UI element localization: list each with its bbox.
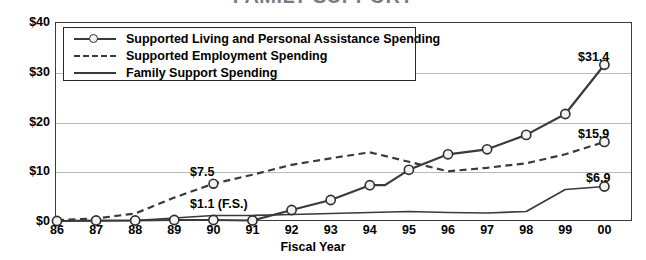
x-tick-90: 90 bbox=[206, 223, 220, 237]
y-tick-20: $20 bbox=[29, 115, 50, 129]
x-axis-title-wrap: Fiscal Year bbox=[0, 240, 646, 254]
x-tick-95: 95 bbox=[402, 223, 416, 237]
x-tick-96: 96 bbox=[441, 223, 455, 237]
legend-label-supported-living: Supported Living and Personal Assistance… bbox=[126, 32, 440, 46]
legend-item-supported-employment: Supported Employment Spending bbox=[72, 48, 409, 64]
x-tick-98: 98 bbox=[519, 223, 533, 237]
x-tick-86: 86 bbox=[50, 223, 64, 237]
legend-label-supported-employment: Supported Employment Spending bbox=[126, 49, 327, 63]
x-tick-99: 99 bbox=[558, 223, 572, 237]
x-tick-93: 93 bbox=[324, 223, 338, 237]
y-tick-30: $30 bbox=[29, 65, 50, 79]
annotation-31-4: $31.4 bbox=[578, 50, 609, 64]
y-tick-10: $10 bbox=[29, 164, 50, 178]
gridline-10 bbox=[56, 172, 631, 173]
annotation-1-1: $1.1 (F.S.) bbox=[190, 197, 248, 211]
legend-item-supported-living: Supported Living and Personal Assistance… bbox=[72, 31, 409, 47]
chart-title-cropped: FAMILY SUPPORT bbox=[0, 0, 646, 7]
x-tick-89: 89 bbox=[167, 223, 181, 237]
x-tick-97: 97 bbox=[480, 223, 494, 237]
legend-key-line-marker-icon bbox=[72, 32, 118, 46]
x-tick-92: 92 bbox=[285, 223, 299, 237]
y-axis: $40 $30 $20 $10 $0 bbox=[0, 0, 55, 260]
annotation-15-9: $15.9 bbox=[578, 127, 609, 141]
y-tick-40: $40 bbox=[29, 15, 50, 29]
x-tick-00: 00 bbox=[597, 223, 611, 237]
annotation-6-9: $6.9 bbox=[586, 171, 610, 185]
gridline-20 bbox=[56, 123, 631, 124]
legend-label-family-support: Family Support Spending bbox=[126, 66, 277, 80]
legend: Supported Living and Personal Assistance… bbox=[63, 27, 416, 81]
legend-item-family-support: Family Support Spending bbox=[72, 65, 409, 81]
page-title: FAMILY SUPPORT bbox=[233, 0, 413, 7]
x-tick-94: 94 bbox=[363, 223, 377, 237]
x-tick-88: 88 bbox=[128, 223, 142, 237]
legend-key-solid-line-icon bbox=[72, 66, 118, 80]
legend-key-dashed-line-icon bbox=[72, 49, 118, 63]
annotation-7-5: $7.5 bbox=[190, 165, 214, 179]
x-axis-title: Fiscal Year bbox=[280, 240, 345, 254]
x-axis: 86 87 88 89 90 91 92 93 94 95 96 97 98 9… bbox=[0, 222, 646, 242]
x-tick-91: 91 bbox=[246, 223, 260, 237]
chart-container: FAMILY SUPPORT $40 $30 $20 $10 $0 bbox=[0, 0, 646, 260]
x-tick-87: 87 bbox=[89, 223, 103, 237]
